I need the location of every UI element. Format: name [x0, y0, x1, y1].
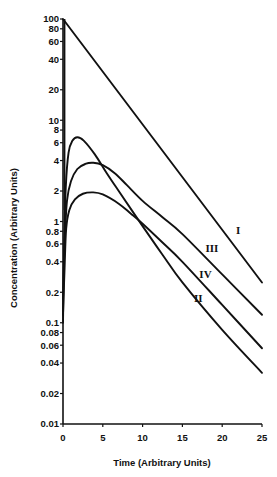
y-tick-label: 0.04 [41, 357, 60, 368]
curve-label-iv: IV [199, 268, 211, 280]
curves [63, 19, 262, 373]
x-tick-label: 20 [217, 432, 228, 443]
y-tick-label: 8 [54, 124, 59, 135]
y-tick-label: 60 [48, 36, 59, 47]
y-tick-label: 20 [48, 84, 59, 95]
x-tick-label: 10 [137, 432, 148, 443]
y-tick-label: 0.6 [46, 238, 59, 249]
curve-iv [63, 192, 262, 348]
x-tick-label: 25 [257, 432, 268, 443]
y-tick-label: 6 [54, 137, 59, 148]
y-tick-label: 0.2 [46, 287, 59, 298]
x-tick-label: 0 [60, 432, 65, 443]
y-tick-label: 4 [54, 155, 60, 166]
pharmacokinetic-chart: 1008060402010864210.80.60.40.20.10.080.0… [0, 0, 277, 477]
x-axis-title: Time (Arbitrary Units) [113, 457, 210, 468]
curve-label-iii: III [205, 242, 218, 254]
y-tick-label: 0.08 [41, 327, 60, 338]
y-tick-label: 2 [54, 185, 59, 196]
y-axis: 1008060402010864210.80.60.40.20.10.080.0… [41, 13, 64, 429]
curve-labels: IIIIIIIV [194, 224, 240, 304]
y-tick-label: 0.8 [46, 226, 59, 237]
y-tick-label: 0.01 [41, 418, 60, 429]
curve-label-ii: II [194, 292, 203, 304]
y-tick-label: 40 [48, 54, 59, 65]
curve-iii [63, 163, 262, 315]
y-tick-label: 80 [48, 23, 59, 34]
curve-label-i: I [236, 224, 240, 236]
y-axis-title: Concentration (Arbitrary Units) [8, 168, 19, 308]
x-axis: 0510152025 [60, 424, 268, 443]
x-tick-label: 5 [100, 432, 106, 443]
x-tick-label: 15 [177, 432, 188, 443]
y-tick-label: 0.4 [46, 256, 60, 267]
y-tick-label: 0.06 [41, 340, 60, 351]
y-tick-label: 0.02 [41, 388, 60, 399]
curve-ii [63, 137, 262, 373]
